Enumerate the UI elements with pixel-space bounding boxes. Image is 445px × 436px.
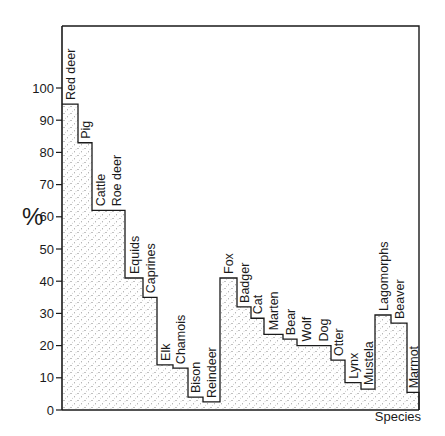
bar-label: Marmot	[407, 345, 421, 388]
bar	[251, 318, 264, 410]
bar-label: Chamois	[174, 315, 188, 364]
bar	[407, 392, 419, 410]
bar-label: Dog	[317, 319, 331, 342]
bar-label: Fox	[222, 252, 236, 274]
bar-label: Badger	[238, 263, 252, 303]
bar-label: Reindeer	[205, 347, 219, 398]
y-axis-title: %	[22, 203, 43, 230]
bar-label: Cat	[251, 294, 265, 314]
bar	[188, 397, 203, 410]
y-tick-label: 40	[40, 274, 54, 289]
bar-label: Marten	[267, 291, 281, 330]
bar	[297, 346, 315, 410]
bar	[345, 383, 361, 410]
y-tick-label: 100	[32, 81, 54, 96]
bar-label: Bear	[284, 309, 298, 335]
y-tick-label: 90	[40, 113, 54, 128]
bar	[108, 210, 125, 410]
bar	[143, 297, 157, 410]
bar-label: Caprines	[144, 243, 158, 293]
bar	[220, 278, 237, 410]
bar	[361, 389, 375, 410]
bar	[237, 307, 251, 410]
bar	[125, 278, 143, 410]
bar	[283, 339, 297, 410]
bar	[62, 104, 78, 410]
y-tick-label: 20	[40, 338, 54, 353]
bar	[157, 365, 173, 410]
bar	[375, 315, 391, 410]
y-tick-label: 30	[40, 306, 54, 321]
y-tick-label: 10	[40, 370, 54, 385]
y-tick-label: 0	[47, 403, 54, 418]
bar	[203, 402, 220, 410]
bar-label: Cattle	[94, 174, 108, 207]
bar-label: Lynx	[347, 352, 361, 379]
bar-label: Equids	[128, 236, 142, 274]
bar-label: Bison	[189, 362, 203, 393]
bar-label: Roe deer	[110, 155, 124, 206]
bar-label: Lagomorphs	[377, 242, 391, 312]
species-percentage-chart: 0102030405060708090100 Red deerPigCattle…	[0, 0, 445, 436]
bar	[315, 346, 331, 410]
bar-label: Red deer	[64, 49, 78, 100]
y-tick-label: 80	[40, 145, 54, 160]
x-axis-title: Species	[375, 409, 422, 424]
bar-label: Pig	[79, 121, 93, 139]
bar-label: Mustela	[362, 341, 376, 385]
bar-label: Wolf	[300, 316, 314, 341]
y-tick-label: 50	[40, 242, 54, 257]
bar	[173, 368, 188, 410]
bar-label: Otter	[332, 328, 346, 356]
bar-label: Beaver	[393, 279, 407, 319]
bar	[264, 334, 283, 410]
y-tick-label: 70	[40, 177, 54, 192]
bar	[92, 210, 108, 410]
bar	[391, 323, 407, 410]
bar	[78, 143, 92, 410]
bar	[331, 360, 345, 410]
bar-label: Elk	[159, 343, 173, 361]
